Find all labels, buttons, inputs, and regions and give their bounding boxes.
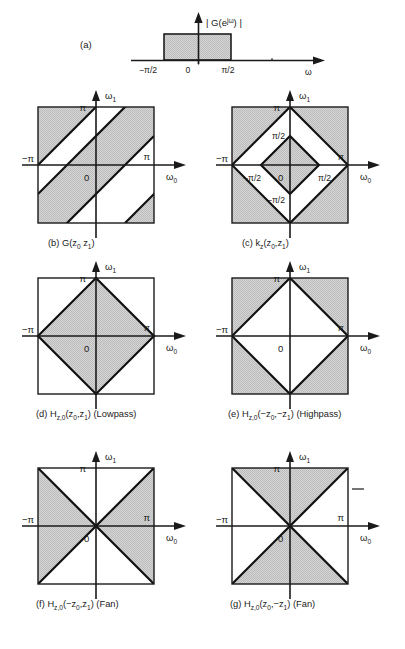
panel-f-label-neg-pi: −π: [22, 514, 35, 525]
panel-a-band: [164, 34, 231, 60]
panel-c-label-pi-x: π: [337, 151, 344, 162]
panel-g-caption: (g) Hz,0(z0,−z1) (Fan): [230, 599, 315, 611]
panel-d-label-pi-y: π: [79, 273, 86, 284]
panel-b-caption: (b) G(z0 z1): [48, 238, 95, 250]
panel-a-xlabel: ω: [305, 67, 312, 77]
panel-a-tag: (a): [80, 39, 92, 50]
panel-c-label-half-pi-x: π/2: [318, 173, 331, 183]
panel-c-caption: (c) kz(z0,z1): [242, 238, 289, 250]
panel-a-tick-zero: 0: [186, 65, 191, 75]
panel-e-label-pi-x: π: [337, 322, 344, 333]
panel-c-label-neg-half-pi-y: −π/2: [267, 195, 285, 205]
panel-c-label-neg-pi: −π: [216, 153, 229, 164]
panel-d-label-pi-x: π: [143, 322, 150, 333]
panel-f-label-pi-y: π: [79, 463, 86, 474]
panel-c-origin: 0: [278, 172, 283, 183]
panel-g-label-neg-pi: −π: [216, 514, 229, 525]
panel-a-tick-half-pi: π/2: [221, 65, 234, 75]
panel-b-label-pi-y: π: [79, 102, 86, 113]
panel-d-label-neg-pi: −π: [22, 324, 35, 335]
panel-b-label-neg-pi: −π: [22, 153, 35, 164]
panel-a-tick-neg-half-pi: −π/2: [139, 65, 157, 75]
panel-f-label-pi-x: π: [143, 512, 150, 523]
panel-c-label-pi-y: π: [273, 102, 280, 113]
panel-e-label-neg-pi: −π: [216, 324, 229, 335]
panel-g-origin: 0: [278, 533, 283, 544]
panel-d-origin: 0: [84, 343, 89, 354]
panel-b-origin: 0: [84, 172, 89, 183]
panel-b-label-pi-x: π: [143, 151, 150, 162]
panel-e-origin: 0: [278, 343, 283, 354]
panel-f-origin: 0: [84, 533, 89, 544]
panel-g-label-pi-x: π: [337, 512, 344, 523]
panel-c-label-neg-half-pi-x: −π/2: [243, 173, 261, 183]
panel-e-label-pi-y: π: [273, 273, 280, 284]
panel-c-label-half-pi-y: π/2: [272, 131, 285, 141]
panel-e-caption: (e) Hz,0(−z0,−z1) (Highpass): [228, 409, 341, 421]
figure-container: (a) | G(ejω) | −π/2 0 π/2 ω: [0, 0, 405, 649]
panel-g-label-pi-y: π: [273, 463, 280, 474]
panel-a-ylabel: | G(ejω) |: [206, 17, 242, 28]
figure-svg: (a) | G(ejω) | −π/2 0 π/2 ω: [0, 0, 405, 649]
